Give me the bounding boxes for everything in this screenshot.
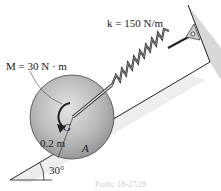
moment-label: M = 30 N · m [6, 60, 67, 72]
wall-shadow [188, 5, 221, 80]
radius-label: 0.2 m [40, 137, 66, 149]
center-label: G [63, 121, 71, 133]
figure-caption: Probs. 18-27/28 [95, 180, 146, 189]
contact-point-label: A [81, 142, 89, 154]
bracket-pin [191, 32, 195, 36]
angle-label: 30° [49, 164, 64, 176]
spring-constant-label: k = 150 N/m [107, 17, 163, 29]
disk-spring-incline-diagram: M = 30 N · m k = 150 N/m G 0.2 m A 30° P… [0, 0, 221, 191]
